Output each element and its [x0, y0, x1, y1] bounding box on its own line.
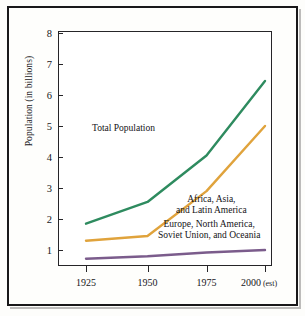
- annotation-total-population: Total Population: [92, 123, 155, 134]
- chart-series-lines: [0, 0, 305, 316]
- annotation-developing-regions: Africa, Asia, and Latin America: [176, 194, 247, 216]
- annotation-developed-line2: Soviet Union, and Oceania: [158, 230, 260, 241]
- annotation-developed-regions: Europe, North America, Soviet Union, and…: [158, 219, 260, 241]
- annotation-developed-line1: Europe, North America,: [158, 219, 260, 230]
- annotation-total-population-text: Total Population: [92, 123, 155, 133]
- annotation-developing-line1: Africa, Asia,: [176, 194, 247, 205]
- annotation-developing-line2: and Latin America: [176, 205, 247, 216]
- series-line-2: [86, 250, 265, 259]
- figure-container: Population (in billions) 12345678 192519…: [0, 0, 305, 316]
